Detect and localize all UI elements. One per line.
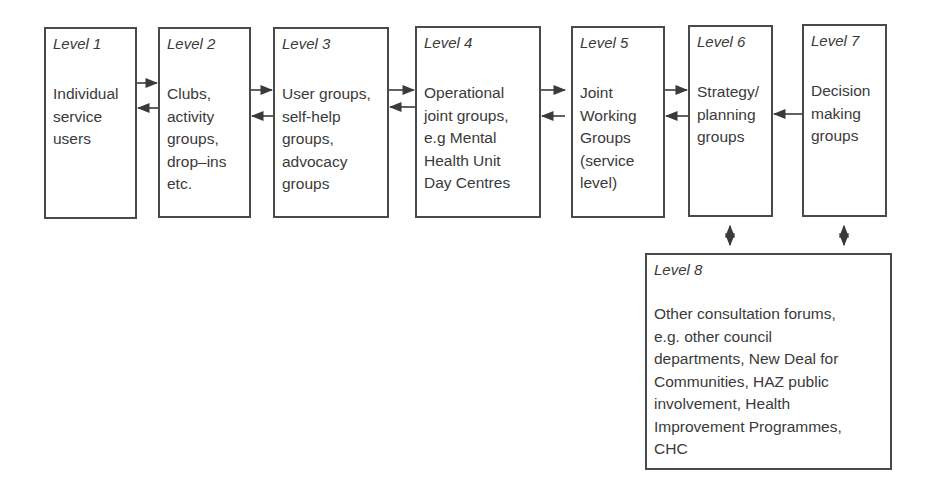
connector-arrows (0, 0, 935, 498)
